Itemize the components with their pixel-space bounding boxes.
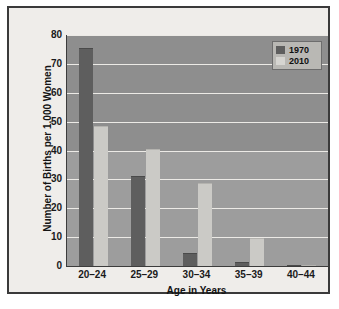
bar-2010-30-34: [198, 183, 212, 266]
bar-group: [119, 35, 171, 266]
bar-1970-25-29: [131, 176, 145, 266]
bar-group: [224, 35, 276, 266]
bar-group: [171, 35, 223, 266]
x-axis-tick-label: 35–39: [223, 269, 275, 281]
y-axis-tick-labels: 01020304050607080: [9, 35, 62, 266]
bar-2010-20-24: [94, 126, 108, 266]
y-axis-tick-label: 50: [14, 117, 62, 127]
legend-item-1970: 1970: [276, 44, 318, 55]
y-axis-tick-label: 70: [14, 59, 62, 69]
chart-figure-frame: Number of Births per 1,000 Women 0102030…: [7, 6, 330, 294]
legend-swatch-icon-2010: [276, 57, 285, 65]
y-axis-tick-label: 30: [14, 174, 62, 184]
y-axis-tick-label: 80: [14, 30, 62, 40]
x-axis-tick-labels: 20–2425–2930–3435–3940–44: [66, 269, 327, 283]
bar-1970-35-39: [235, 262, 249, 266]
bar-2010-35-39: [250, 238, 264, 266]
legend-label-1970: 1970: [289, 45, 309, 55]
chart-figure-background: Number of Births per 1,000 Women 0102030…: [9, 8, 328, 292]
x-axis-tick-label: 25–29: [118, 269, 170, 281]
legend-swatch-icon-1970: [276, 46, 285, 54]
y-axis-tick-label: 20: [14, 203, 62, 213]
bar-1970-30-34: [183, 253, 197, 266]
x-axis-title: Age in Years: [66, 285, 327, 296]
y-axis-tick-label: 40: [14, 146, 62, 156]
x-axis-tick-label: 20–24: [66, 269, 118, 281]
legend-label-2010: 2010: [289, 56, 309, 66]
y-axis-tick-label: 10: [14, 232, 62, 242]
bar-1970-20-24: [79, 48, 93, 266]
chart-legend: 1970 2010: [272, 41, 322, 70]
y-axis-tick-label: 0: [14, 261, 62, 271]
bar-group: [67, 35, 119, 266]
y-axis-tick-label: 60: [14, 88, 62, 98]
bar-1970-40-44: [287, 265, 301, 266]
bar-2010-25-29: [146, 149, 160, 266]
x-axis-tick-label: 30–34: [170, 269, 222, 281]
x-axis-tick-label: 40–44: [275, 269, 327, 281]
bar-2010-40-44: [302, 265, 316, 266]
legend-item-2010: 2010: [276, 55, 318, 66]
